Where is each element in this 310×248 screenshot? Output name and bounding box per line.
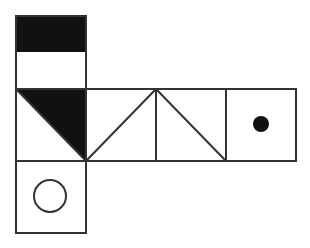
face-middle2: [156, 89, 226, 161]
face-bottom: [16, 161, 86, 233]
face-middle2-diagonal: [156, 89, 226, 161]
face-right: [226, 89, 296, 161]
face-top: [16, 16, 86, 89]
face-right-filled-dot: [253, 116, 269, 132]
face-left: [16, 89, 86, 161]
face-middle1: [86, 89, 156, 161]
face-middle1-diagonal: [86, 89, 156, 161]
face-bottom-hollow-circle: [34, 180, 66, 212]
face-bottom-border: [16, 161, 86, 233]
cube-net-diagram: [0, 0, 310, 248]
face-top-black-half: [16, 16, 86, 52]
